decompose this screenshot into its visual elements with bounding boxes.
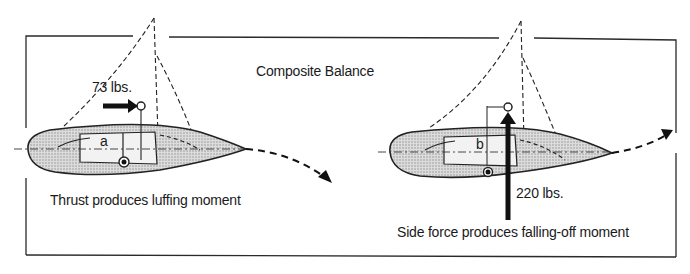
right-course-arrow — [612, 134, 668, 153]
right-sails — [429, 21, 556, 140]
diagram-title: Composite Balance — [256, 63, 374, 79]
left-caption: Thrust produces luffing moment — [50, 192, 241, 208]
left-center-of-effort — [137, 102, 145, 110]
left-boat — [14, 18, 332, 183]
thrust-force-label: 73 lbs. — [92, 79, 132, 95]
right-caption: Side force produces falling-off moment — [397, 224, 629, 240]
left-cockpit — [80, 132, 157, 164]
side-force-label: 220 lbs. — [516, 185, 563, 201]
right-center-of-effort — [504, 103, 512, 111]
left-course-arrow — [246, 149, 326, 178]
dimension-a-label: a — [100, 133, 108, 149]
dimension-b-label: b — [476, 136, 484, 152]
